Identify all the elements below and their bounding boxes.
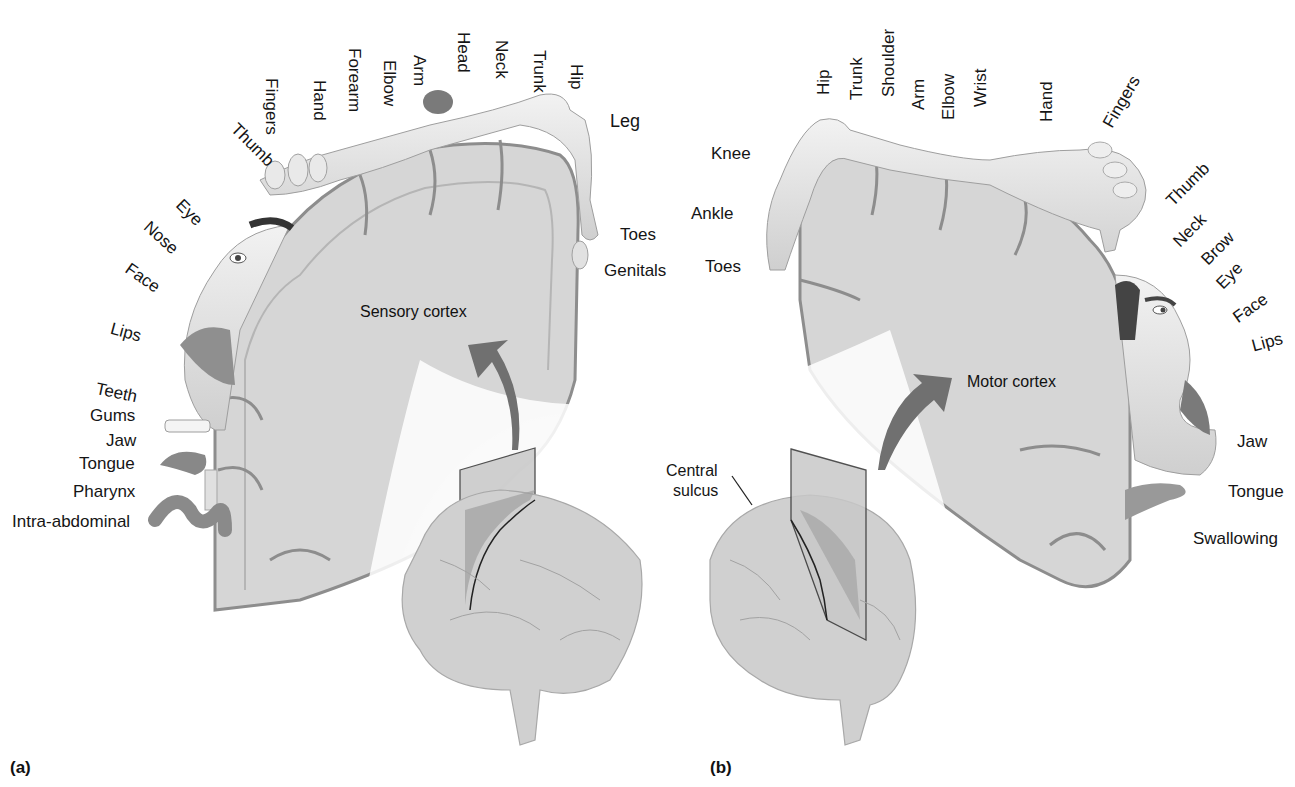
label-genitals: Genitals — [604, 262, 666, 279]
label-pharynx: Pharynx — [73, 483, 135, 500]
motor-cortex-panel: Knee Ankle Toes Hip Trunk Shoulder Arm E… — [660, 0, 1295, 787]
label-ankle: Ankle — [691, 205, 734, 222]
label-arm: Arm — [411, 55, 428, 86]
label-intra-abdominal: Intra-abdominal — [12, 513, 130, 530]
label-gums: Gums — [90, 407, 135, 424]
label-leg: Leg — [610, 112, 640, 130]
label-toes: Toes — [705, 258, 741, 275]
label-tongue: Tongue — [1228, 483, 1284, 500]
label-fingers: Fingers — [263, 78, 280, 135]
label-toes: Toes — [620, 226, 656, 243]
label-tongue: Tongue — [79, 455, 135, 472]
label-hip: Hip — [568, 64, 585, 90]
sensory-cortex-panel: Thumb Fingers Hand Forearm Elbow Arm Hea… — [0, 0, 660, 787]
panel-tag-a: (a) — [10, 758, 31, 778]
label-jaw: Jaw — [106, 432, 136, 449]
panel-tag-b: (b) — [710, 758, 732, 778]
label-shoulder: Shoulder — [880, 29, 897, 97]
label-head: Head — [455, 32, 472, 73]
label-central-sulcus-line2: sulcus — [673, 483, 718, 499]
label-hand: Hand — [311, 80, 328, 121]
label-neck: Neck — [493, 40, 510, 79]
label-arm: Arm — [910, 79, 927, 110]
sensory-cortex-title: Sensory cortex — [360, 303, 467, 321]
label-elbow: Elbow — [381, 60, 398, 106]
motor-homunculus-illustration — [660, 0, 1295, 787]
label-trunk: Trunk — [531, 50, 548, 93]
label-trunk: Trunk — [848, 57, 865, 100]
label-wrist: Wrist — [972, 69, 989, 107]
label-swallowing: Swallowing — [1193, 530, 1278, 547]
motor-cortex-title: Motor cortex — [967, 373, 1056, 391]
label-hip: Hip — [815, 69, 832, 95]
label-elbow: Elbow — [940, 74, 957, 120]
label-hand: Hand — [1038, 81, 1055, 122]
label-forearm: Forearm — [346, 48, 363, 112]
label-central-sulcus-line1: Central — [666, 463, 718, 479]
label-jaw: Jaw — [1237, 433, 1267, 450]
homunculus-head — [423, 90, 453, 114]
label-knee: Knee — [711, 145, 751, 162]
